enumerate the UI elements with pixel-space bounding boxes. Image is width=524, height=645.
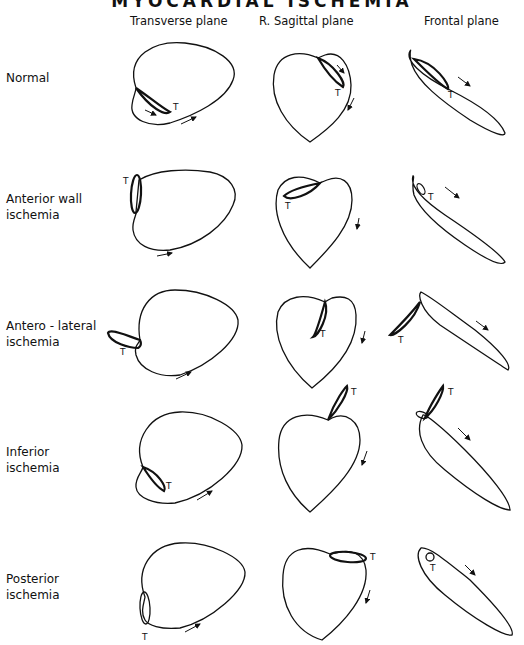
svg-text:T: T [284,201,291,211]
svg-text:T: T [350,387,357,397]
loop-normal-sagittal: T [273,54,354,142]
svg-text:T: T [334,88,341,98]
svg-text:T: T [427,192,434,202]
loop-inferior-sagittal: T [279,386,367,512]
loop-normal-transverse: T [132,43,234,125]
loop-anterior-frontal: T [412,176,505,263]
svg-text:T: T [319,329,326,339]
loop-anterolateral-sagittal: T [277,297,365,388]
loop-anterolateral-transverse: T [108,290,238,379]
loop-posterior-sagittal: T [283,549,376,640]
svg-text:T: T [447,387,454,397]
loop-normal-frontal: T [409,50,505,135]
svg-text:T: T [397,335,404,345]
svg-text:T: T [429,563,436,573]
svg-text:T: T [122,176,129,186]
svg-text:T: T [141,632,148,642]
svg-text:T: T [447,90,454,100]
loop-inferior-transverse: T [136,412,242,503]
svg-text:T: T [165,481,172,491]
loop-anterior-sagittal: T [276,177,359,268]
svg-text:T: T [369,552,376,562]
loop-inferior-frontal: T [415,386,510,510]
svg-text:T: T [119,347,126,357]
loop-anterolateral-frontal: T [390,292,509,370]
loop-posterior-transverse: T [139,543,245,642]
loop-anterior-transverse: T [122,170,235,256]
vectorcardiogram-loops: T T T T T T T [0,0,524,645]
svg-text:T: T [172,102,179,112]
loop-posterior-frontal: T [418,548,512,635]
